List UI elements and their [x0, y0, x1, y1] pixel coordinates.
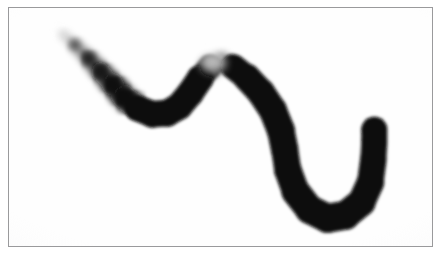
stroke-start-fade — [48, 19, 72, 43]
stroke-joint — [81, 51, 96, 66]
light-gap-at-hump-apex — [200, 52, 226, 73]
figure-caption — [0, 0, 1, 1]
ink-stroke-canvas — [9, 8, 432, 246]
stroke-joint — [357, 169, 384, 196]
figure-root — [0, 0, 442, 258]
rounded-terminal-cap — [361, 117, 387, 143]
plate-frame — [8, 7, 433, 247]
stroke-joint — [69, 39, 80, 50]
